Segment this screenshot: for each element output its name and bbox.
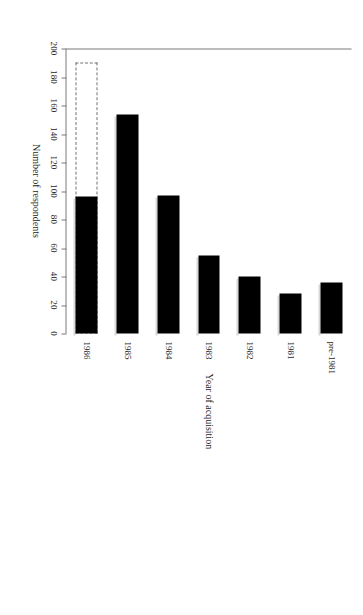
- value-axis-tick-label: 100: [48, 183, 58, 197]
- value-axis-tick-label: 160: [48, 98, 58, 112]
- value-axis-tick: [61, 77, 66, 78]
- value-axis-title: Number of respondents: [29, 48, 41, 333]
- value-axis-tick-label: 40: [48, 271, 58, 280]
- bar-1986[interactable]: [75, 196, 97, 333]
- category-label-1986: 1986: [81, 341, 91, 385]
- value-axis-tick: [61, 305, 66, 306]
- bar-pre-1981[interactable]: [320, 282, 342, 333]
- category-label-pre-1981: pre-1981: [326, 341, 336, 385]
- bar-1984[interactable]: [157, 195, 179, 333]
- bar-1982[interactable]: [238, 276, 260, 333]
- category-label-1981: 1981: [285, 341, 295, 385]
- category-axis-line: [66, 48, 351, 49]
- value-axis-tick-label: 80: [48, 214, 58, 223]
- value-axis-tick: [61, 276, 66, 277]
- bar-1983[interactable]: [198, 255, 220, 333]
- value-axis-tick: [61, 162, 66, 163]
- value-axis-tick-label: 20: [48, 300, 58, 309]
- value-axis-tick-label: 140: [48, 126, 58, 140]
- value-axis-tick: [61, 105, 66, 106]
- bar-1981[interactable]: [279, 293, 301, 333]
- value-axis-tick-label: 180: [48, 69, 58, 83]
- value-axis-tick-label: 120: [48, 155, 58, 169]
- value-axis-tick: [61, 248, 66, 249]
- rotated-figure: 020406080100120140160180200 pre-19811981…: [0, 0, 363, 615]
- category-label-1982: 1982: [244, 341, 254, 385]
- bar-1985[interactable]: [116, 114, 138, 333]
- plot-area: 020406080100120140160180200 pre-19811981…: [0, 0, 363, 615]
- value-axis-tick: [61, 219, 66, 220]
- value-axis-tick: [61, 191, 66, 192]
- category-label-1985: 1985: [122, 341, 132, 385]
- category-label-1984: 1984: [163, 341, 173, 385]
- value-axis-tick: [61, 333, 66, 334]
- value-axis-tick-label: 60: [48, 243, 58, 252]
- value-axis-tick-label: 0: [48, 331, 58, 336]
- value-axis-tick-label: 200: [48, 41, 58, 55]
- value-axis-tick: [61, 48, 66, 49]
- chart-canvas: 020406080100120140160180200 pre-19811981…: [0, 0, 363, 615]
- value-axis-tick: [61, 134, 66, 135]
- category-axis-title: Year of acquisition: [203, 373, 215, 449]
